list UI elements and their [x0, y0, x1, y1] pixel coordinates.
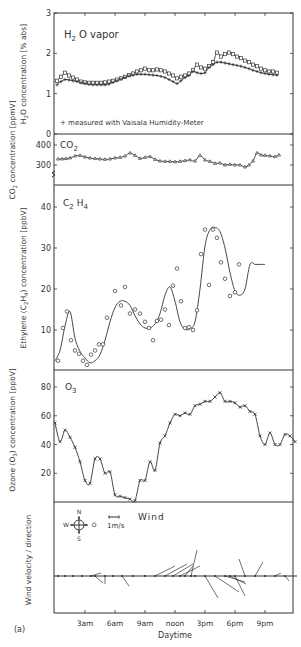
compass-south: S: [77, 535, 81, 542]
svg-text:9pm: 9pm: [257, 619, 274, 628]
svg-text:0: 0: [46, 130, 51, 139]
panel-c2h4: C2H4 10203040: [41, 198, 293, 367]
svg-text:1: 1: [46, 90, 51, 99]
panel-co2: CO2 300400: [36, 140, 293, 177]
svg-text:30: 30: [41, 244, 51, 253]
ylabel-co2: CO2 concentration [ppmV]: [8, 100, 18, 199]
compass-west: W: [63, 521, 69, 528]
svg-text:2: 2: [46, 49, 51, 58]
plot-frame: [54, 13, 293, 613]
c2h4-data: [55, 227, 265, 366]
svg-text:3pm: 3pm: [197, 619, 214, 628]
svg-text:80: 80: [41, 383, 51, 392]
x-axis-title: Daytime: [158, 631, 192, 640]
compass-north: N: [77, 508, 82, 515]
panel-h2o: H2O vapor + measured with Vaisala Humidi…: [46, 9, 293, 139]
o3-data: [54, 391, 297, 502]
svg-text:40: 40: [41, 441, 51, 450]
y-axis-labels: H2O concentration [% abs] CO2 concentrat…: [8, 24, 33, 606]
compass-east: O: [92, 521, 97, 528]
panel-title-co2: CO2: [60, 140, 78, 153]
svg-text:60: 60: [41, 412, 51, 421]
ylabel-o3: Ozone (O3) concentration [ppbV]: [8, 368, 18, 491]
svg-text:20: 20: [41, 285, 51, 294]
svg-text:300: 300: [36, 161, 51, 170]
panel-title-wind: Wind: [138, 512, 165, 522]
svg-text:6pm: 6pm: [227, 619, 244, 628]
multi-panel-chart: H2O vapor + measured with Vaisala Humidi…: [0, 0, 301, 647]
svg-text:noon: noon: [166, 619, 185, 628]
axis-break-icon: [52, 171, 55, 177]
svg-text:40: 40: [41, 203, 51, 212]
scale-label: 1m/s: [107, 522, 125, 530]
svg-text:3am: 3am: [77, 619, 94, 628]
svg-text:6am: 6am: [107, 619, 124, 628]
svg-text:10: 10: [41, 326, 51, 335]
panel-o3: O3 20406080: [41, 382, 297, 502]
svg-text:3: 3: [46, 9, 51, 18]
co2-data: [57, 151, 281, 168]
figure-label: (a): [14, 625, 25, 634]
svg-text:9am: 9am: [137, 619, 154, 628]
c2h4-y-ticks: 10203040: [41, 203, 293, 335]
x-axis-labels: 3am6am9amnoon3pm6pm9pm: [77, 619, 274, 628]
svg-text:400: 400: [36, 141, 51, 150]
h2o-legend-note: + measured with Vaisala Humidity-Meter: [60, 119, 204, 127]
ylabel-c2h4: Ethylene (C2H4) concentration [ppbV]: [19, 207, 29, 348]
svg-text:20: 20: [41, 469, 51, 478]
panel-title-o3: O3: [65, 382, 77, 395]
ylabel-wind: Wind velocity / direction: [24, 514, 33, 605]
compass-icon: N S W O: [63, 508, 97, 542]
h2o-data: [55, 51, 278, 86]
panel-title-h2o: H2O vapor: [64, 29, 120, 43]
ylabel-h2o: H2O concentration [% abs]: [19, 24, 29, 124]
panel-wind: N S W O 1m/s Wind: [54, 508, 297, 598]
wind-data: [57, 550, 289, 598]
scale-bar-icon: [109, 516, 119, 519]
panel-title-c2h4: C2H4: [63, 198, 89, 211]
